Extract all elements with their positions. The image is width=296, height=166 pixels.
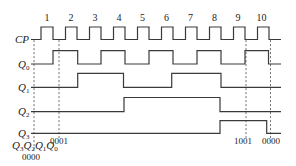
timing-diagram-canvas: 1 2 3 4 5 6 7 8 9 10 CP Q0 Q1 Q2 Q3 Q3Q2… bbox=[0, 0, 296, 166]
pulse-number-2: 2 bbox=[69, 12, 74, 23]
pulse-number-6: 6 bbox=[164, 12, 169, 23]
pulse-number-10: 10 bbox=[257, 12, 267, 23]
state-code-after-pulse-10: 0000 bbox=[262, 136, 281, 146]
q0-waveform bbox=[31, 51, 281, 64]
pulse-number-9: 9 bbox=[236, 12, 241, 23]
signal-label-q1: Q1 bbox=[18, 81, 30, 95]
timing-diagram: 1 2 3 4 5 6 7 8 9 10 CP Q0 Q1 Q2 Q3 Q3Q2… bbox=[0, 0, 296, 166]
pulse-number-7: 7 bbox=[188, 12, 193, 23]
q2-waveform bbox=[31, 98, 281, 112]
state-code-initial: 0000 bbox=[22, 152, 41, 162]
q1-waveform bbox=[31, 73, 281, 87]
signal-label-cp: CP bbox=[15, 33, 29, 45]
cp-waveform bbox=[31, 27, 281, 40]
state-code-after-pulse-9: 1001 bbox=[234, 136, 252, 146]
signal-label-q0: Q0 bbox=[18, 58, 30, 72]
signal-label-q2: Q2 bbox=[18, 105, 30, 119]
pulse-number-1: 1 bbox=[45, 12, 50, 23]
pulse-number-3: 3 bbox=[93, 12, 98, 23]
pulse-number-4: 4 bbox=[117, 12, 122, 23]
pulse-number-5: 5 bbox=[140, 12, 145, 23]
pulse-number-8: 8 bbox=[212, 12, 217, 23]
q3-waveform bbox=[31, 121, 281, 134]
state-code-after-pulse-1: 0001 bbox=[50, 136, 68, 146]
